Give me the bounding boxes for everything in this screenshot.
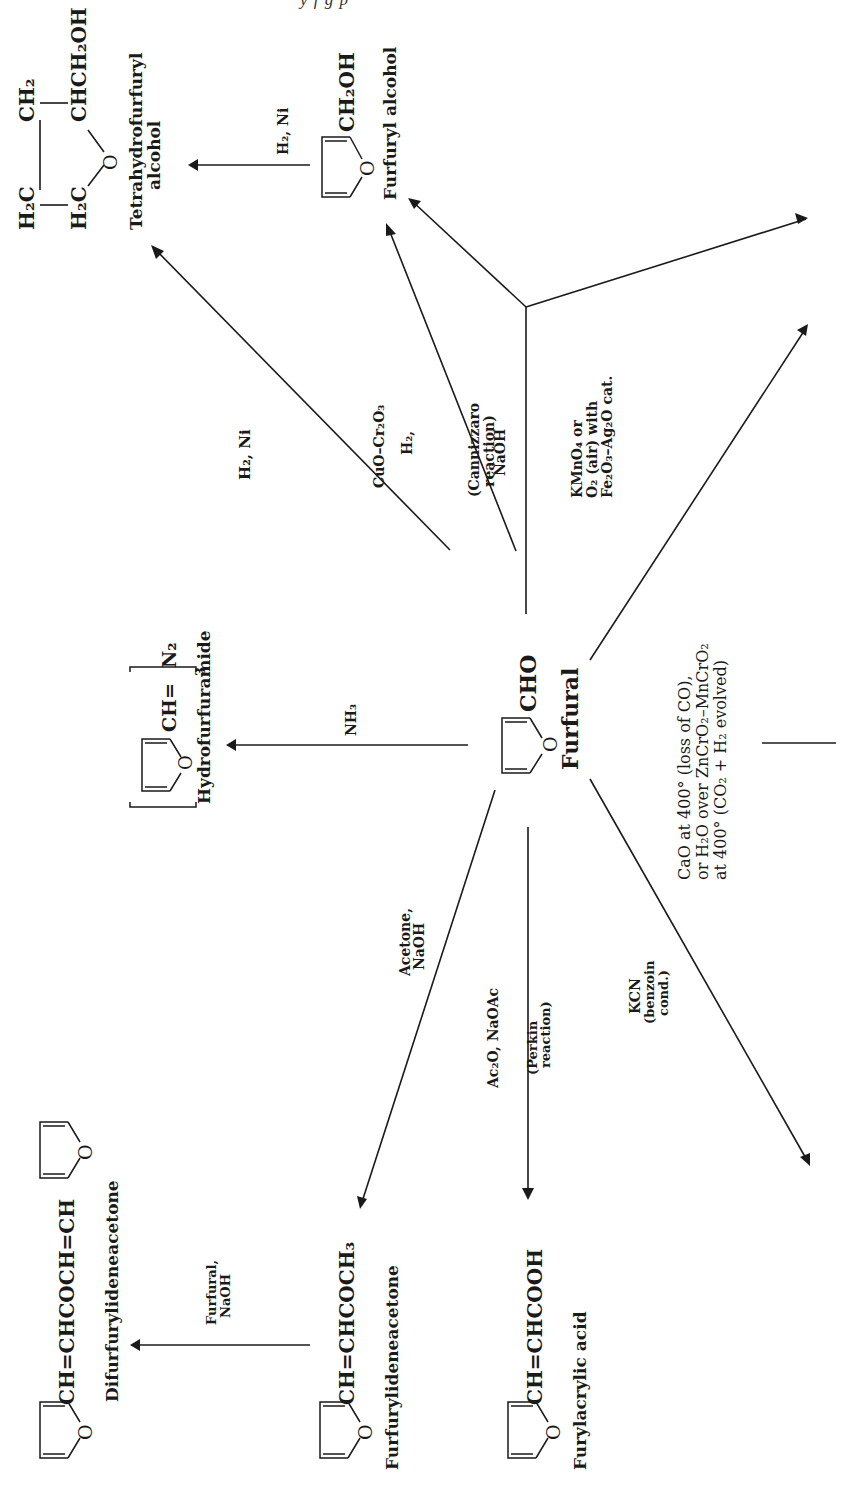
hydrofurfuramide-name: Hydrofurfuramide (194, 630, 214, 804)
label-nh3: NH₃ (343, 704, 359, 736)
label-h2-ni: H₂, Ni (236, 429, 254, 480)
difurfurylideneacetone-ring-o-1: O (74, 1424, 96, 1440)
label-decarbonylation-3: at 400° (CO₂ + H₂ evolved) (711, 660, 730, 880)
thfa-f-h2c-top: H₂C (15, 186, 39, 230)
label-kcn-2: (benzoin (642, 960, 657, 1024)
furfuryl-alcohol-name: Furfuryl alcohol (380, 46, 400, 200)
arrow-perkin-to-furylacrylic-acid (522, 827, 534, 1200)
label-perkin-3: reaction) (538, 1001, 553, 1068)
hydrofurfuramide-ring-o: O (175, 755, 196, 770)
thfa-f-h2c-bot: H₂C (67, 186, 91, 230)
hydrofurfuramide-formula: CH= (158, 683, 180, 732)
label-oxidation-2: O₂ (air) with (584, 401, 600, 498)
arrow-h2-cuo-to-furfuryl-alcohol (386, 223, 516, 551)
label-kcn-1: KCN (627, 978, 643, 1014)
arrow-oxidation (590, 324, 808, 660)
label-cannizzaro-1: (Cannizzaro (466, 403, 482, 497)
label-perkin-1: Ac₂O, NaOAc (485, 988, 501, 1089)
label-oxidation-3: Fe₂O₃–Ag₂O cat. (599, 376, 615, 498)
label-decarbonylation-2: or H₂O over ZnCrO₂–MnCrO₂ (693, 643, 712, 880)
arrow-acetone-to-furfurylideneacetone (357, 790, 495, 1209)
furfuryl-alcohol-formula: CH₂OH (335, 52, 359, 132)
label-h2-ni-fa-to-thfa: H₂, Ni (275, 108, 291, 155)
difurfurylideneacetone-formula: CH=CHCOCH=CH (55, 1199, 79, 1405)
thfa-name-2: alcohol (144, 120, 164, 190)
label-acetone-2: NaOH (411, 923, 427, 970)
label-kcn-3: cond.) (656, 970, 671, 1016)
furfural-formula: CHO (515, 655, 541, 712)
difurfurylideneacetone-ring-o-2: O (74, 1144, 96, 1160)
arrow-furfuryl-alcohol-to-thfa (188, 159, 310, 171)
furfurylideneacetone-ring-o: O (354, 1424, 376, 1440)
furfural-name: Furfural (557, 668, 583, 770)
label-cannizzaro-2: reaction) (481, 415, 497, 487)
arrow-h2ni-to-thfa (151, 245, 450, 550)
difurfurylideneacetone-name: Difurfurylideneacetone (102, 1180, 122, 1402)
thfa-f-ch2: CH₂ (15, 78, 39, 122)
hydrofurfuramide-suffix: N₂ (158, 642, 180, 668)
furfuryl-alcohol-ring-o: O (356, 160, 378, 176)
arrow-furfural-naoh (130, 1339, 310, 1351)
label-furfural-naoh-1: Furfural, (204, 1260, 219, 1325)
furylacrylic-acid-name: Furylacrylic acid (570, 1311, 590, 1470)
label-h2-cuo-2: CuO–Cr₂O₃ (371, 405, 387, 489)
label-decarbonylation-1: CaO at 400° (loss of CO), (675, 676, 694, 881)
furylacrylic-acid-ring-o: O (542, 1424, 564, 1440)
thfa-f-o: O (99, 154, 121, 170)
furylacrylic-acid-formula: CH=CHCOOH (523, 1249, 547, 1405)
thfa-name-1: Tetrahydrofurfuryl (126, 52, 146, 230)
furfurylideneacetone-name: Furfurylideneacetone (382, 1265, 402, 1470)
furfural-reaction-diagram: CHO O Furfural H₂C CH₂ H₂C CHCH₂OH O Tet… (0, 0, 863, 1488)
furfural-ring-structure (502, 718, 542, 773)
arrow-nh3-to-hydrofurfuramide (226, 739, 468, 751)
label-h2-cuo-1: H₂, (399, 431, 415, 455)
thfa-f-chch2oh: CHCH₂OH (67, 7, 91, 122)
furfurylideneacetone-formula: CH=CHCOCH₃ (335, 1242, 359, 1405)
label-furfural-naoh-2: NaOH (218, 1274, 233, 1318)
label-oxidation-1: KMnO₄ or (569, 420, 585, 498)
